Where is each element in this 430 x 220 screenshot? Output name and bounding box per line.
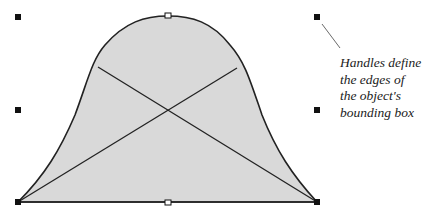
handle-bottom-center[interactable] xyxy=(165,200,171,205)
handle-bottom-left[interactable] xyxy=(15,199,21,205)
handle-middle-right[interactable] xyxy=(314,107,320,113)
callout-leader-line xyxy=(322,24,340,48)
handle-top-right[interactable] xyxy=(314,14,320,20)
caption-line-2: the edges of xyxy=(340,72,430,89)
handle-bottom-right[interactable] xyxy=(314,199,320,205)
caption-line-1: Handles define xyxy=(340,55,430,72)
handle-middle-left[interactable] xyxy=(15,107,21,113)
handle-top-left[interactable] xyxy=(15,14,21,20)
caption-line-3: the object's xyxy=(340,88,430,105)
annotation-caption: Handles define the edges of the object's… xyxy=(340,55,430,121)
handle-top-center[interactable] xyxy=(165,13,171,18)
caption-line-4: bounding box xyxy=(340,105,430,122)
